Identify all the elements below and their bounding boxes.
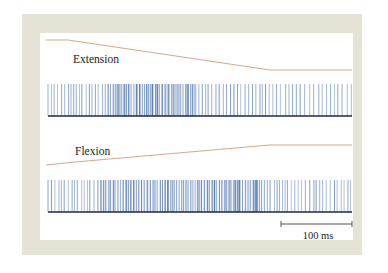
flexion-spike-train	[48, 180, 350, 212]
flexion-group: Flexion	[46, 145, 352, 212]
scale-bar: 100 ms	[281, 221, 352, 241]
flexion-label: Flexion	[75, 145, 110, 157]
scale-bar-label: 100 ms	[303, 230, 334, 241]
extension-group: Extension	[46, 40, 352, 116]
extension-label: Extension	[73, 53, 119, 65]
spike-figure: Extension Flexion 100 ms	[0, 0, 388, 273]
extension-spike-train	[48, 84, 351, 116]
